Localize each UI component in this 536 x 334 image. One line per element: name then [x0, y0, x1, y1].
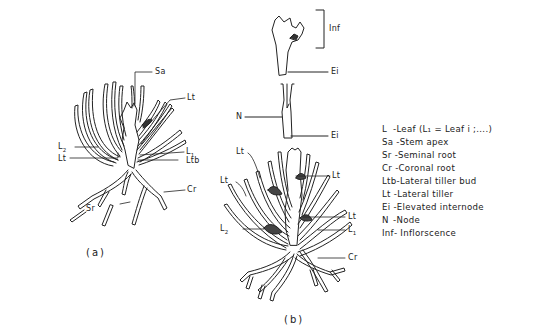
label-l2: L2 — [58, 143, 67, 153]
legend-item: L -Leaf (L₁ = Leaf i ;....) — [382, 123, 492, 136]
label-lt-right: Lt — [348, 213, 356, 221]
label-cr-b: Cr — [348, 254, 357, 262]
legend-item: Sa -Stem apex — [382, 136, 492, 149]
legend-item: Cr -Coronal root — [382, 162, 492, 175]
label-lt-left: Lt — [220, 177, 228, 185]
legend-text: -Stem apex — [393, 137, 448, 147]
legend-item: Lt -Lateral tiller — [382, 188, 492, 201]
legend-abbr: Inf — [382, 227, 394, 240]
label-ltb: Ltb — [186, 157, 200, 165]
legend-text: -Seminal root — [392, 150, 457, 160]
legend-abbr: Sa — [382, 136, 393, 149]
legend-abbr: L — [382, 123, 390, 136]
legend-item: N -Node — [382, 214, 492, 227]
label-inf: Inf — [329, 25, 340, 33]
legend-item: Ei -Elevated internode — [382, 201, 492, 214]
legend-item: Inf- Inflorscence — [382, 227, 492, 240]
label-lt-mid-right: Lt — [332, 172, 340, 180]
label-cr: Cr — [187, 186, 196, 194]
label-sr: Sr — [86, 205, 95, 213]
label-ei-bottom: Ei — [331, 132, 339, 140]
caption-a: (a) — [86, 247, 106, 258]
legend-item: Ltb-Lateral tiller bud — [382, 175, 492, 188]
legend-item: Sr -Seminal root — [382, 149, 492, 162]
panel-b-internode — [245, 84, 328, 138]
caption-b: (b) — [284, 314, 304, 325]
label-l2-b: L2 — [220, 225, 229, 235]
legend: L -Leaf (L₁ = Leaf i ;....) Sa -Stem ape… — [382, 123, 492, 240]
label-n: N — [236, 113, 242, 121]
panel-b-inflorescence — [272, 10, 328, 75]
label-sa: Sa — [155, 68, 166, 76]
label-l1-b: L1 — [348, 226, 357, 236]
legend-text: - Inflorscence — [394, 228, 456, 238]
label-lt-top-left: Lt — [236, 148, 244, 156]
legend-text: -Lateral tiller bud — [397, 176, 477, 186]
legend-text: -Lateral tiller — [391, 189, 454, 199]
legend-abbr: Cr — [382, 162, 392, 175]
legend-abbr: N — [382, 214, 390, 227]
label-lt-left: Lt — [58, 155, 66, 163]
label-lt-top: Lt — [187, 94, 195, 102]
legend-abbr: Lt — [382, 188, 391, 201]
label-ei-top: Ei — [331, 68, 339, 76]
legend-abbr: Sr — [382, 149, 392, 162]
legend-text: -Node — [390, 215, 420, 225]
legend-abbr: Ltb — [382, 175, 397, 188]
legend-text: -Coronal root — [392, 163, 455, 173]
legend-text: -Leaf (L₁ = Leaf i ;....) — [390, 124, 492, 134]
legend-text: -Elevated internode — [390, 202, 483, 212]
